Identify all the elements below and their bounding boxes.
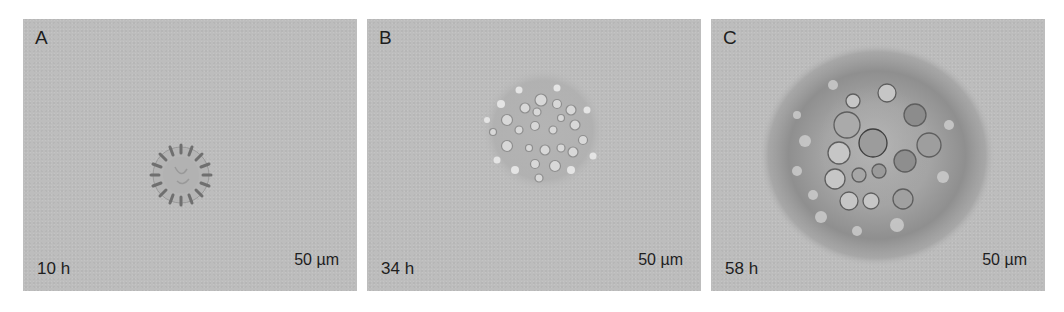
scale-label: 50 µm [638,251,683,269]
time-label: 10 h [37,259,70,279]
panel-letter: C [723,27,737,49]
scale-label: 50 µm [982,251,1027,269]
panel-letter: B [379,27,392,49]
time-label: 34 h [381,259,414,279]
time-label: 58 h [725,259,758,279]
panel-c: C 58 h 50 µm [711,19,1045,291]
panel-b: B 34 h 50 µm [367,19,701,291]
scale-label: 50 µm [294,251,339,269]
panel-letter: A [35,27,48,49]
panel-a: A 10 h 50 µm [23,19,357,291]
